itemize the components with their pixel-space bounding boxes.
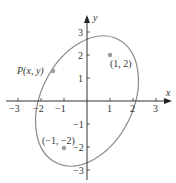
focus-label-1-2: (1, 2) — [110, 58, 132, 70]
focus-point-1-2 — [108, 53, 112, 57]
x-tick-label: −3 — [9, 103, 20, 114]
y-tick-label: 1 — [78, 73, 83, 84]
x-tick-label: 2 — [130, 103, 135, 114]
focus-label-neg1-neg2: (−1, −2) — [42, 135, 75, 147]
x-axis-label: x — [165, 87, 171, 98]
focus-point-neg1-neg2 — [62, 146, 66, 150]
x-tick-label: 3 — [153, 103, 158, 114]
y-axis-label: y — [92, 12, 98, 23]
x-tick-label: −1 — [55, 103, 66, 114]
y-tick-label: −3 — [73, 165, 84, 176]
x-tick-label: 1 — [107, 103, 112, 114]
x-tick-label: −2 — [33, 103, 44, 114]
y-tick-label: −1 — [73, 119, 84, 130]
point-p — [51, 69, 55, 73]
ellipse-diagram: −3 −2 −1 1 2 3 x 3 2 1 −1 −2 −3 y (1, 2)… — [0, 0, 176, 183]
y-tick-label: 3 — [78, 27, 83, 38]
point-p-label: P(x, y) — [16, 65, 44, 77]
y-tick-label: 2 — [78, 50, 83, 61]
diagram-canvas: −3 −2 −1 1 2 3 x 3 2 1 −1 −2 −3 y (1, 2)… — [0, 0, 176, 183]
y-axis-arrow-icon — [84, 15, 90, 23]
x-axis-arrow-icon — [164, 98, 172, 104]
